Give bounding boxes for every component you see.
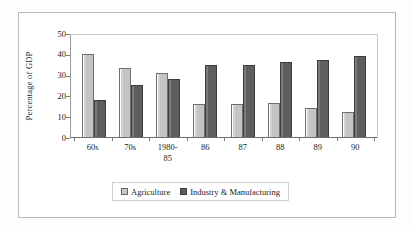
y-tick-label: 30: [44, 71, 66, 80]
bar-industry[interactable]: [205, 65, 217, 137]
x-tick-label: 87: [224, 142, 262, 172]
y-axis-title: Percentage of GDP: [24, 34, 38, 138]
bar-group: [299, 35, 336, 137]
x-tick-label: 60s: [74, 142, 112, 172]
x-tick-label: 89: [299, 142, 337, 172]
x-tick-mark: [299, 138, 300, 141]
bar-industry[interactable]: [280, 62, 292, 137]
bar-agriculture[interactable]: [268, 103, 280, 137]
bar-industry[interactable]: [168, 79, 180, 137]
bar-industry[interactable]: [94, 100, 106, 137]
x-tick-label: 88: [262, 142, 300, 172]
plot-area: [70, 34, 378, 138]
legend-swatch-agriculture-icon: [121, 188, 128, 195]
x-tick-label: 90: [337, 142, 375, 172]
bar-group: [75, 35, 112, 137]
bar-agriculture[interactable]: [342, 112, 354, 137]
chart-figure: Percentage of GDP 01020304050 60s70s1980…: [0, 0, 413, 227]
bar-groups: [71, 35, 377, 137]
legend-label-agriculture: Agriculture: [131, 187, 170, 197]
bar-agriculture[interactable]: [231, 104, 243, 137]
x-tick-mark: [187, 138, 188, 141]
x-tick-label: 70s: [112, 142, 150, 172]
bar-group: [336, 35, 373, 137]
bar-group: [261, 35, 298, 137]
x-tick-mark: [337, 138, 338, 141]
legend-swatch-industry-icon: [180, 188, 187, 195]
y-tick-mark: [66, 138, 70, 139]
bar-agriculture[interactable]: [305, 108, 317, 137]
x-tick-mark: [224, 138, 225, 141]
legend-entry-agriculture[interactable]: Agriculture: [121, 187, 170, 197]
y-axis-tick-labels: 01020304050: [44, 30, 66, 142]
x-tick-mark: [374, 138, 375, 141]
legend-label-industry: Industry & Manufacturing: [190, 187, 280, 197]
bar-industry[interactable]: [317, 60, 329, 137]
bar-agriculture[interactable]: [119, 68, 131, 137]
x-tick-label: 86: [187, 142, 225, 172]
x-tick-label: 1980- 85: [149, 142, 187, 172]
y-tick-label: 40: [44, 50, 66, 59]
bar-group: [112, 35, 149, 137]
bar-group: [224, 35, 261, 137]
bar-agriculture[interactable]: [193, 104, 205, 137]
bar-group: [150, 35, 187, 137]
x-tick-mark: [149, 138, 150, 141]
y-tick-label: 50: [44, 30, 66, 39]
bar-industry[interactable]: [354, 56, 366, 137]
bar-industry[interactable]: [243, 65, 255, 137]
y-tick-label: 20: [44, 92, 66, 101]
y-tick-mark: [66, 34, 70, 35]
y-tick-label: 10: [44, 113, 66, 122]
x-tick-mark: [74, 138, 75, 141]
bar-industry[interactable]: [131, 85, 143, 137]
y-tick-mark: [66, 96, 70, 97]
x-axis-tick-labels: 60s70s1980- 858687888990: [70, 142, 378, 172]
y-tick-mark: [66, 76, 70, 77]
x-tick-mark: [112, 138, 113, 141]
bar-agriculture[interactable]: [82, 54, 94, 137]
y-tick-label: 0: [44, 134, 66, 143]
y-tick-mark: [66, 117, 70, 118]
bar-agriculture[interactable]: [156, 73, 168, 137]
legend-entry-industry[interactable]: Industry & Manufacturing: [180, 187, 280, 197]
x-tick-mark: [262, 138, 263, 141]
y-tick-mark: [66, 55, 70, 56]
chart-legend: Agriculture Industry & Manufacturing: [112, 182, 289, 201]
bar-group: [187, 35, 224, 137]
